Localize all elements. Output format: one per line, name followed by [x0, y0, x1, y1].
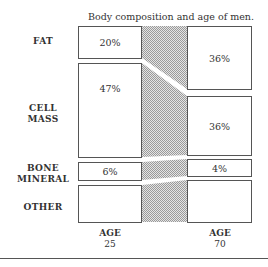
- row-label-cell-mass: CELL MASS: [14, 103, 72, 125]
- row-label-text: CELL: [14, 103, 72, 114]
- row-label-text: OTHER: [14, 202, 72, 213]
- row-label-text: MINERAL: [10, 174, 76, 185]
- column-label-age25: AGE 25: [85, 228, 135, 250]
- row-label-text: BONE: [10, 163, 76, 174]
- box-age70-bone-mineral: 4%: [187, 159, 252, 177]
- box-age70-fat: 36%: [187, 26, 252, 90]
- row-label-text: MASS: [14, 114, 72, 125]
- row-label-text: FAT: [18, 36, 68, 47]
- age-label: AGE: [85, 228, 135, 239]
- box-age70-other: [187, 180, 252, 223]
- row-label-other: OTHER: [14, 202, 72, 213]
- age-value: 25: [85, 239, 135, 250]
- row-label-bone-mineral: BONE MINERAL: [10, 163, 76, 185]
- box-age70-cell-mass: 36%: [187, 96, 252, 156]
- diagram-title: Body composition and age of men.: [88, 11, 254, 22]
- box-age25-cell-mass: 47%: [78, 63, 142, 158]
- age-label: AGE: [195, 228, 245, 239]
- row-label-fat: FAT: [18, 36, 68, 47]
- box-age25-other: [78, 185, 142, 223]
- box-age25-fat: 20%: [78, 26, 142, 59]
- column-label-age70: AGE 70: [195, 228, 245, 250]
- box-age25-bone-mineral: 6%: [78, 162, 142, 181]
- bottom-rule: [0, 258, 268, 259]
- age-value: 70: [195, 239, 245, 250]
